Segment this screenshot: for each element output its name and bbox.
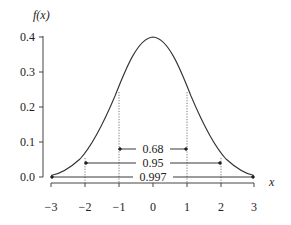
x-tick-label: −2 xyxy=(79,200,92,214)
y-tick-label: 0.4 xyxy=(20,30,35,44)
y-tick-label: 0.3 xyxy=(20,65,35,79)
x-tick-label: 1 xyxy=(184,200,190,214)
band-label-997: 0.997 xyxy=(140,170,167,184)
y-axis: 0.4 0.3 0.2 0.1 0.0 f(x) xyxy=(20,8,50,184)
y-axis-label: f(x) xyxy=(33,8,50,22)
x-axis-label: x xyxy=(268,175,275,189)
y-tick-label: 0.2 xyxy=(20,100,35,114)
x-tick-label: 3 xyxy=(251,200,257,214)
x-tick-label: 0 xyxy=(150,200,156,214)
x-tick-label: 2 xyxy=(218,200,224,214)
y-tick-label: 0.0 xyxy=(20,170,35,184)
x-tick-label: −3 xyxy=(45,200,58,214)
band-label-95: 0.95 xyxy=(143,156,164,170)
normal-distribution-chart: 0.4 0.3 0.2 0.1 0.0 f(x) −3 −2 −1 0 1 2 … xyxy=(0,0,291,225)
y-tick-label: 0.1 xyxy=(20,135,35,149)
band-label-68: 0.68 xyxy=(143,142,164,156)
x-tick-label: −1 xyxy=(113,200,126,214)
